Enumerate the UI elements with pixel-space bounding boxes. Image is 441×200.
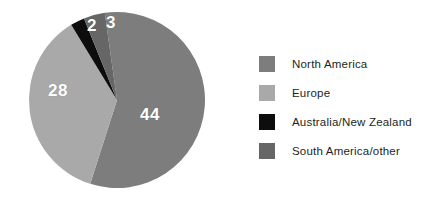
pie-chart-figure: 44 28 2 3 North America Europe Australia…: [0, 0, 441, 200]
pie-slice-group: [29, 12, 205, 188]
legend-item-label: North America: [292, 58, 367, 70]
legend-item-label: Australia/New Zealand: [292, 116, 412, 128]
legend-item-europe: Europe: [259, 78, 441, 107]
pie-slice-value-south-america-other: 3: [106, 14, 116, 31]
legend-item-australia-new-zealand: Australia/New Zealand: [259, 107, 441, 136]
legend-swatch-icon: [259, 85, 275, 101]
legend-swatch-icon: [259, 56, 275, 72]
chart-legend: North America Europe Australia/New Zeala…: [259, 49, 441, 165]
pie-svg: [0, 0, 250, 200]
pie-slice-value-europe: 28: [48, 82, 68, 99]
legend-swatch-icon: [259, 143, 275, 159]
legend-swatch-icon: [259, 114, 275, 130]
legend-item-north-america: North America: [259, 49, 441, 78]
pie-slice-value-australia-new-zealand: 2: [87, 17, 97, 34]
legend-item-label: South America/other: [292, 145, 400, 157]
pie-plot-area: 44 28 2 3: [0, 0, 250, 200]
legend-item-south-america-other: South America/other: [259, 136, 441, 165]
pie-slice-value-north-america: 44: [140, 106, 160, 123]
legend-item-label: Europe: [292, 87, 330, 99]
